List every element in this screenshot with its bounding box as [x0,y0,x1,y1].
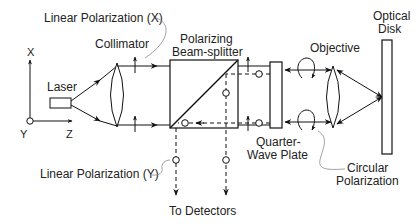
optical-disk-label-line2: Disk [378,22,402,36]
optical-disk-label-line1: Optical [373,9,410,23]
circular-polarization-label-line2: Polarization [336,174,399,188]
linear-polarization-x-label: Linear Polarization (X) [44,11,163,25]
axis-z-label: Z [66,128,73,140]
laser-label: Laser [47,80,77,94]
quarter-wave-plate: Quarter- Wave Plate [247,62,308,162]
collimator-lens: Collimator [95,37,149,127]
focused-beams [337,70,382,124]
optical-disk: Optical Disk [373,9,410,154]
outgoing-beams-to-qwp [238,57,270,131]
beam-splitter-label-line1: Polarizing [180,32,233,46]
quarter-wave-label-line2: Wave Plate [247,148,308,162]
to-detectors-label: To Detectors [169,204,236,218]
linear-polarization-y-label: Linear Polarization (Y) [40,167,159,181]
circular-beams [285,58,331,130]
quarter-wave-label-line1: Quarter- [256,135,301,149]
collimator-label: Collimator [95,37,149,51]
axis-x-label: X [27,46,35,58]
axis-y-label: Y [20,128,28,140]
objective-label: Objective [310,41,360,55]
polarizing-beam-splitter: Polarizing Beam-splitter [170,32,243,128]
collimated-beams [117,57,170,132]
circular-polarization-label-line1: Circular [347,161,388,175]
laser: Laser [47,80,77,108]
linear-polarization-y-annotation: Linear Polarization (Y) [40,160,170,181]
beam-splitter-label-line2: Beam-splitter [172,45,243,59]
optical-pickup-diagram: X Y Z Laser Collimator Linear Polarizati… [0,0,418,224]
